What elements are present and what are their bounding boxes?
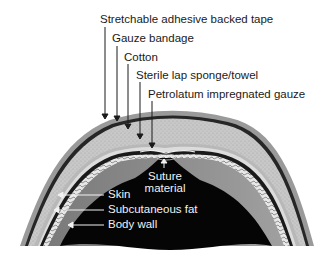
label-body-wall: Body wall — [108, 219, 157, 231]
label-sterile-sponge: Sterile lap sponge/towel — [136, 70, 258, 82]
label-cotton: Cotton — [124, 52, 158, 64]
dressing-diagram: Stretchable adhesive backed tape Gauze b… — [0, 0, 327, 260]
label-subcutaneous-fat: Subcutaneous fat — [108, 204, 198, 216]
label-gauze-bandage: Gauze bandage — [112, 33, 194, 45]
label-suture-line1: Suture — [145, 171, 185, 183]
label-suture-line2: material — [143, 183, 187, 195]
label-skin: Skin — [108, 189, 130, 201]
label-petrolatum-gauze: Petrolatum impregnated gauze — [148, 89, 305, 101]
label-tape: Stretchable adhesive backed tape — [100, 14, 273, 26]
